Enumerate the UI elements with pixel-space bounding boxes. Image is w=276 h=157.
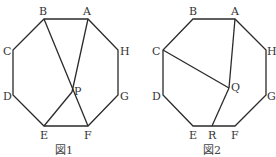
label-E: E: [40, 129, 48, 142]
label-A2: A: [230, 5, 240, 18]
label-D2: D: [152, 90, 161, 103]
label-G2: G: [267, 90, 276, 103]
segment-PE: [44, 92, 72, 126]
caption-fig2: 図2: [203, 144, 221, 157]
segment-BF: [44, 19, 88, 126]
figure-2: B A H G F E R D C Q 図2: [152, 5, 276, 157]
label-Q: Q: [231, 81, 240, 94]
label-A: A: [82, 5, 92, 18]
caption-fig1: 図1: [55, 144, 73, 157]
label-B2: B: [189, 5, 197, 18]
label-E2: E: [189, 129, 197, 142]
label-H2: H: [267, 45, 276, 58]
figures-canvas: B A H G F E D C P 図1 B A H G F E R D C Q…: [0, 0, 276, 157]
label-B: B: [39, 5, 47, 18]
label-F: F: [84, 129, 92, 142]
label-G: G: [120, 90, 129, 103]
label-R: R: [208, 129, 217, 142]
segment-QR: [212, 88, 229, 126]
octagon-2: [163, 19, 266, 126]
label-D: D: [3, 90, 12, 103]
segment-AP: [72, 19, 88, 92]
segment-AQ: [229, 19, 235, 88]
figure-1: B A H G F E D C P 図1: [3, 5, 130, 157]
label-F2: F: [231, 129, 239, 142]
label-H: H: [120, 45, 130, 58]
label-C: C: [3, 45, 11, 58]
label-P: P: [74, 85, 82, 98]
label-C2: C: [152, 45, 160, 58]
segment-CQ: [163, 50, 229, 88]
